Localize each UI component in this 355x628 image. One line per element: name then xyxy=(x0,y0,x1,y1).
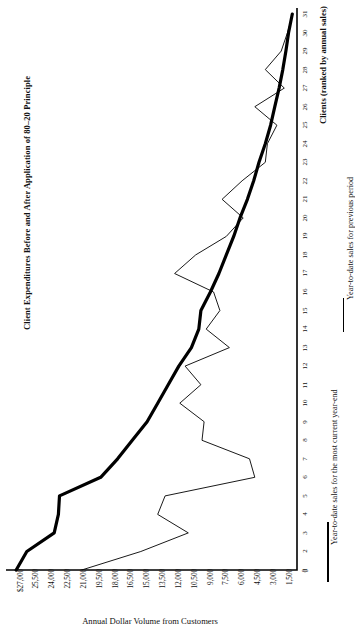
value-tick-label: 24,000 xyxy=(47,569,58,613)
value-tick-label: 4,500 xyxy=(253,569,264,613)
category-tick-label: 27 xyxy=(301,80,310,96)
axis-spine xyxy=(6,8,297,570)
category-tick-label: 3 xyxy=(301,525,310,541)
category-tick-label: 19 xyxy=(301,228,310,244)
category-tick-label: 20 xyxy=(301,210,310,226)
category-tick-label: 6 xyxy=(301,469,310,485)
value-tick-label: 15,000 xyxy=(142,569,153,613)
category-tick-label: 10 xyxy=(301,395,310,411)
value-tick-label: 7,500 xyxy=(221,569,232,613)
value-tick-label: 25,500 xyxy=(31,569,42,613)
value-tick-label: 3,000 xyxy=(269,569,280,613)
category-tick-label: 22 xyxy=(301,173,310,189)
legend-swatch-previous xyxy=(343,298,344,332)
category-tick-label: 14 xyxy=(301,321,310,337)
category-tick-label: 7 xyxy=(301,451,310,467)
category-tick-label: 1 xyxy=(301,562,310,578)
category-tick-label: 2 xyxy=(301,543,310,559)
category-tick-label: 15 xyxy=(301,303,310,319)
value-axis-caption: Annual Dollar Volume from Customers xyxy=(0,616,300,626)
value-tick-label: 18,000 xyxy=(111,569,122,613)
legend-label-previous: Year-to-date sales for previous period xyxy=(346,70,355,300)
category-tick-label: 26 xyxy=(301,99,310,115)
value-tick-label: 21,000 xyxy=(79,569,90,613)
category-tick-label: 29 xyxy=(301,43,310,59)
legend-label-current: Year-to-date sales for the most current … xyxy=(330,315,339,545)
category-tick-label: 8 xyxy=(301,432,310,448)
series-line-previous xyxy=(82,14,293,570)
category-axis-caption: Clients (ranked by annual sales) xyxy=(318,0,328,175)
category-tick-label: 18 xyxy=(301,247,310,263)
value-tick-label: 19,500 xyxy=(95,569,106,613)
value-tick-label: 12,000 xyxy=(174,569,185,613)
value-tick-label: $27,000 xyxy=(16,569,27,613)
value-tick-label: 16,500 xyxy=(126,569,137,613)
series-line-current xyxy=(16,14,292,570)
category-tick-label: 4 xyxy=(301,506,310,522)
category-tick-label: 23 xyxy=(301,154,310,170)
category-tick-label: 9 xyxy=(301,414,310,430)
category-tick-label: 21 xyxy=(301,191,310,207)
category-tick-label: 25 xyxy=(301,117,310,133)
category-tick-label: 24 xyxy=(301,136,310,152)
value-tick-label: 9,000 xyxy=(206,569,217,613)
plot-area xyxy=(0,0,300,576)
value-tick-label: 6,000 xyxy=(237,569,248,613)
category-tick-label: 11 xyxy=(301,377,310,393)
category-tick-label: 31 xyxy=(301,6,310,22)
category-tick-label: 12 xyxy=(301,358,310,374)
value-axis-ticks: $27,00025,50024,00022,50021,00019,50018,… xyxy=(0,573,300,615)
category-tick-label: 5 xyxy=(301,488,310,504)
category-tick-label: 30 xyxy=(301,25,310,41)
value-tick-label: 10,500 xyxy=(190,569,201,613)
value-tick-label: 22,500 xyxy=(63,569,74,613)
value-tick-label: 1,500 xyxy=(285,569,296,613)
category-axis-ticks: 1234567891011121314151617181920212223242… xyxy=(297,0,319,573)
category-tick-label: 17 xyxy=(301,265,310,281)
value-tick-label: 13,500 xyxy=(158,569,169,613)
category-tick-label: 13 xyxy=(301,340,310,356)
category-tick-label: 28 xyxy=(301,62,310,78)
category-tick-label: 16 xyxy=(301,284,310,300)
chart-canvas xyxy=(0,0,300,576)
